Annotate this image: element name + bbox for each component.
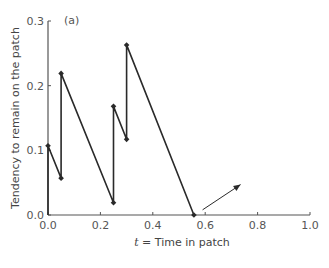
- axes: 0.00.20.40.60.81.00.00.10.20.3: [27, 15, 319, 232]
- panel-label: (a): [64, 14, 79, 27]
- arrow-head-icon: [233, 185, 240, 191]
- data-point-marker: [58, 71, 64, 77]
- x-tick-label: 0.2: [92, 219, 110, 232]
- chart: 0.00.20.40.60.81.00.00.10.20.3 (a) Tende…: [0, 0, 329, 268]
- x-tick-label: 0.4: [144, 219, 162, 232]
- y-tick-label: 0.1: [27, 144, 45, 157]
- y-axis-label: Tendency to remain on the patch: [9, 27, 22, 210]
- x-axis-label: t = Time in patch: [134, 236, 230, 249]
- data-point-marker: [124, 137, 130, 143]
- data-point-marker: [45, 143, 51, 149]
- y-tick-label: 0.0: [27, 209, 45, 222]
- data-series: [45, 42, 197, 218]
- data-point-marker: [58, 175, 64, 181]
- data-point-marker: [111, 200, 117, 206]
- x-axis-label-text: = Time in patch: [139, 236, 230, 249]
- data-point-marker: [111, 104, 117, 110]
- y-tick-label: 0.3: [27, 15, 45, 28]
- x-tick-label: 0.6: [196, 219, 214, 232]
- data-point-marker: [191, 212, 197, 218]
- data-point-marker: [124, 42, 130, 48]
- series-line: [48, 45, 194, 215]
- y-tick-label: 0.2: [27, 80, 45, 93]
- annotations: [203, 185, 241, 210]
- x-tick-label: 0.8: [249, 219, 267, 232]
- x-tick-label: 1.0: [301, 219, 319, 232]
